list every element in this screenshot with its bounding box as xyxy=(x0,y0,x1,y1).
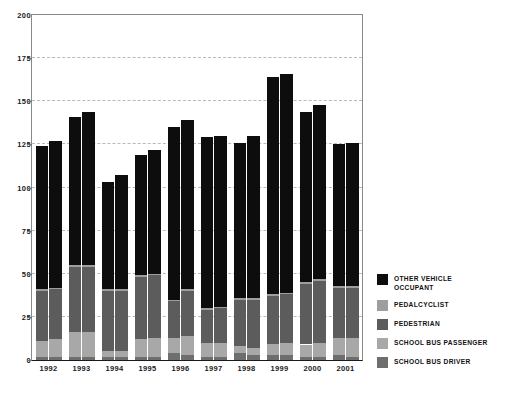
segment-pedalcyclist xyxy=(280,293,293,295)
legend-swatch-school-bus-driver xyxy=(377,357,388,368)
segment-school-bus-passenger xyxy=(300,345,313,357)
segment-pedalcyclist xyxy=(36,289,49,291)
legend-item-other-vehicle-occupant[interactable]: OTHER VEHICLE OCCUPANT xyxy=(377,274,511,292)
segment-other-vehicle-occupant xyxy=(300,112,313,283)
segment-school-bus-passenger xyxy=(201,343,214,357)
segment-pedestrian xyxy=(267,296,280,344)
segment-pedestrian xyxy=(102,291,115,351)
segment-school-bus-driver xyxy=(333,355,346,360)
bar-1994-b[interactable] xyxy=(115,175,128,360)
bar-group-1999 xyxy=(267,15,293,360)
stacked-bar-chart: 0255075100125150175200 19921993199419951… xyxy=(0,0,511,407)
bar-group-2000 xyxy=(300,15,326,360)
segment-pedestrian xyxy=(346,288,359,338)
segment-school-bus-driver xyxy=(36,357,49,360)
legend-item-pedalcyclist[interactable]: PEDALCYCLIST xyxy=(377,300,511,311)
bar-2000-a[interactable] xyxy=(300,112,313,360)
bar-2000-b[interactable] xyxy=(313,106,326,360)
segment-pedestrian xyxy=(181,291,194,336)
legend-item-school-bus-driver[interactable]: SCHOOL BUS DRIVER xyxy=(377,357,511,368)
segment-school-bus-passenger xyxy=(36,341,49,357)
bar-1996-a[interactable] xyxy=(168,127,181,360)
segment-other-vehicle-occupant xyxy=(148,150,161,274)
segment-other-vehicle-occupant xyxy=(168,127,181,300)
segment-school-bus-driver xyxy=(313,357,326,360)
segment-school-bus-passenger xyxy=(214,343,227,357)
segment-pedalcyclist xyxy=(201,308,214,310)
segment-school-bus-driver xyxy=(82,357,95,360)
bar-2001-a[interactable] xyxy=(333,144,346,360)
bar-1998-b[interactable] xyxy=(247,136,260,360)
bar-1993-b[interactable] xyxy=(82,112,95,360)
segment-other-vehicle-occupant xyxy=(234,143,247,298)
x-tick-label-1996: 1996 xyxy=(164,364,197,373)
legend-label-school-bus-passenger: SCHOOL BUS PASSENGER xyxy=(394,338,488,348)
segment-school-bus-driver xyxy=(69,357,82,360)
segment-other-vehicle-occupant xyxy=(333,144,346,285)
segment-pedalcyclist xyxy=(148,274,161,276)
segment-pedalcyclist xyxy=(102,289,115,291)
segment-pedestrian xyxy=(247,300,260,348)
segment-pedestrian xyxy=(168,301,181,337)
bar-1993-a[interactable] xyxy=(69,117,82,360)
segment-school-bus-passenger xyxy=(247,348,260,355)
segment-pedestrian xyxy=(280,294,293,342)
segment-school-bus-driver xyxy=(115,357,128,360)
bar-group-2001 xyxy=(333,15,359,360)
segment-pedestrian xyxy=(300,284,313,344)
segment-school-bus-driver xyxy=(234,353,247,360)
bar-1997-a[interactable] xyxy=(201,137,214,360)
segment-pedestrian xyxy=(49,289,62,339)
segment-school-bus-passenger xyxy=(333,338,346,355)
bar-1995-b[interactable] xyxy=(148,148,161,360)
x-tick-label-1999: 1999 xyxy=(263,364,296,373)
segment-other-vehicle-occupant xyxy=(69,117,82,265)
segment-pedalcyclist xyxy=(69,265,82,267)
segment-school-bus-driver xyxy=(280,355,293,360)
segment-pedalcyclist xyxy=(300,282,313,284)
segment-pedalcyclist xyxy=(267,294,280,296)
segment-other-vehicle-occupant xyxy=(82,112,95,266)
x-tick-label-1998: 1998 xyxy=(230,364,263,373)
bar-1996-b[interactable] xyxy=(181,120,194,360)
segment-pedestrian xyxy=(201,310,214,343)
bar-2001-b[interactable] xyxy=(346,143,359,360)
segment-pedalcyclist xyxy=(49,288,62,290)
bar-1994-a[interactable] xyxy=(102,182,115,360)
segment-pedalcyclist xyxy=(181,289,194,291)
bar-1992-a[interactable] xyxy=(36,146,49,360)
segment-school-bus-passenger xyxy=(346,338,359,357)
legend-label-pedestrian: PEDESTRIAN xyxy=(394,319,440,329)
chart-legend: OTHER VEHICLE OCCUPANTPEDALCYCLISTPEDEST… xyxy=(377,274,511,376)
x-tick-label-2000: 2000 xyxy=(296,364,329,373)
bar-1998-a[interactable] xyxy=(234,143,247,360)
x-tick-label-1994: 1994 xyxy=(98,364,131,373)
bar-1995-a[interactable] xyxy=(135,155,148,360)
segment-other-vehicle-occupant xyxy=(247,136,260,298)
bar-1997-b[interactable] xyxy=(214,134,227,360)
segment-pedestrian xyxy=(36,291,49,341)
bar-1999-b[interactable] xyxy=(280,74,293,360)
segment-school-bus-driver xyxy=(148,357,161,360)
segment-other-vehicle-occupant xyxy=(181,120,194,289)
bar-group-1996 xyxy=(168,15,194,360)
segment-school-bus-driver xyxy=(300,357,313,360)
bar-1999-a[interactable] xyxy=(267,77,280,360)
bar-group-1997 xyxy=(201,15,227,360)
legend-swatch-other-vehicle-occupant xyxy=(377,274,388,285)
x-tick-label-1993: 1993 xyxy=(65,364,98,373)
segment-school-bus-driver xyxy=(102,357,115,360)
segment-school-bus-passenger xyxy=(280,343,293,355)
y-tick-label-200: 200 xyxy=(5,11,31,20)
segment-school-bus-passenger xyxy=(267,344,280,354)
segment-pedestrian xyxy=(333,288,346,338)
bar-group-1992 xyxy=(36,15,62,360)
segment-school-bus-passenger xyxy=(135,339,148,356)
segment-pedalcyclist xyxy=(234,298,247,300)
legend-label-school-bus-driver: SCHOOL BUS DRIVER xyxy=(394,357,471,367)
segment-other-vehicle-occupant xyxy=(313,105,326,279)
legend-item-pedestrian[interactable]: PEDESTRIAN xyxy=(377,319,511,330)
segment-other-vehicle-occupant xyxy=(201,137,214,308)
bar-1992-b[interactable] xyxy=(49,141,62,360)
legend-item-school-bus-passenger[interactable]: SCHOOL BUS PASSENGER xyxy=(377,338,511,349)
